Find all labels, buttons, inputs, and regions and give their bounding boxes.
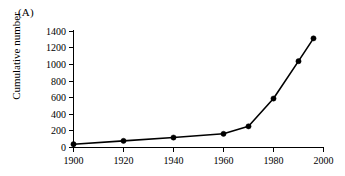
y-tick-labels: 0 200 400 600 800 1000 1200 1400: [46, 26, 66, 153]
line-chart-plot: 0 200 400 600 800 1000 1200 1400 190: [0, 0, 345, 176]
y-tick-label: 1400: [46, 26, 66, 37]
data-point: [271, 96, 276, 101]
y-tick-label: 200: [51, 125, 66, 136]
data-point: [71, 142, 76, 147]
x-tick-label: 1900: [64, 155, 84, 166]
x-tick-label: 1980: [264, 155, 284, 166]
y-tick-label: 600: [51, 92, 66, 103]
x-axis-group: 1900 1920 1940 1960 1980 2000: [64, 148, 334, 167]
y-tick-label: 400: [51, 109, 66, 120]
data-point: [296, 59, 301, 64]
y-tick-label: 1200: [46, 42, 66, 53]
x-tick-labels: 1900 1920 1940 1960 1980 2000: [64, 155, 334, 166]
data-line-path: [74, 38, 314, 144]
y-tick-label: 800: [51, 76, 66, 87]
data-point: [171, 135, 176, 140]
figure-panel: (A) Cumulative number 0 200 400 600 800: [0, 0, 345, 176]
data-point: [121, 138, 126, 143]
y-tick-label: 0: [61, 142, 66, 153]
x-tick-marks: [74, 148, 324, 153]
data-point: [311, 36, 316, 41]
y-axis-group: 0 200 400 600 800 1000 1200 1400: [46, 26, 74, 153]
x-tick-label: 2000: [314, 155, 334, 166]
data-point: [221, 131, 226, 136]
y-tick-marks: [69, 31, 74, 147]
x-tick-label: 1920: [114, 155, 134, 166]
x-tick-label: 1940: [164, 155, 184, 166]
data-point: [246, 124, 251, 129]
x-tick-label: 1960: [214, 155, 234, 166]
y-tick-label: 1000: [46, 59, 66, 70]
data-series-cumulative-number: [71, 36, 316, 147]
